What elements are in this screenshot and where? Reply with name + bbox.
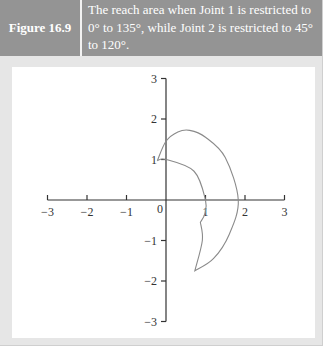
tick-label: 2 [151, 112, 157, 126]
tick-label: −1 [120, 205, 133, 219]
tick-label: −3 [144, 315, 157, 329]
tick-label: −1 [144, 234, 157, 248]
reach-area-chart: −3−2−11230321−1−2−3 [0, 0, 328, 347]
tick-label: −3 [41, 205, 54, 219]
tick-label: 2 [242, 205, 248, 219]
tick-label: −2 [144, 274, 157, 288]
axes [48, 79, 285, 322]
tick-label: 3 [151, 72, 157, 86]
tick-label: 3 [282, 205, 288, 219]
tick-label: −2 [81, 205, 94, 219]
tick-label: 1 [151, 153, 157, 167]
tick-label: 0 [157, 202, 163, 216]
